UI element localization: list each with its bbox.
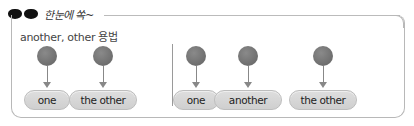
node-right-another: another [214,46,282,110]
arrow-stem [196,66,197,82]
label-pill: one [173,90,219,110]
arrow-stem [103,66,104,82]
node-left-one: one [24,46,70,110]
section-subtitle: another, other 용법 [20,28,118,44]
label-pill: the other [289,90,357,110]
arrow-stem [323,66,324,82]
circle-icon [186,46,206,66]
label-pill: the other [69,90,137,110]
label-pill: one [24,90,70,110]
arrow-down-icon [319,82,327,88]
circle-icon [93,46,113,66]
node-left-the-other: the other [69,46,137,110]
circle-icon [37,46,57,66]
label-pill: another [214,90,282,110]
arrow-down-icon [244,82,252,88]
node-right-one: one [173,46,219,110]
circle-icon [238,46,258,66]
arrow-down-icon [192,82,200,88]
frame-corner [390,15,404,28]
node-right-the-other: the other [289,46,357,110]
arrow-down-icon [99,82,107,88]
arrow-stem [47,66,48,82]
arrow-stem [248,66,249,82]
circle-icon [313,46,333,66]
arrow-down-icon [43,82,51,88]
